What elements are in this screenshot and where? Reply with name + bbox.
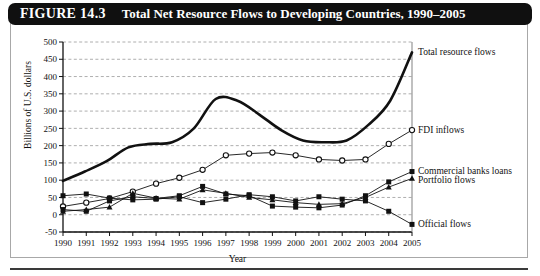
data-point-marker bbox=[153, 181, 158, 186]
x-axis-tick-label: 2003 bbox=[356, 238, 375, 248]
data-point-marker bbox=[84, 192, 89, 197]
y-axis-tick-label: 100 bbox=[44, 175, 58, 185]
y-axis-tick-label: 150 bbox=[44, 158, 58, 168]
data-point-marker bbox=[340, 197, 345, 202]
series-label-fdi-inflows: FDI inflows bbox=[418, 125, 464, 135]
data-point-marker bbox=[177, 175, 182, 180]
y-axis-tick-label: 50 bbox=[48, 193, 58, 203]
x-axis-tick-label: 1999 bbox=[263, 238, 282, 248]
series-label-official-flows: Official flows bbox=[418, 219, 471, 229]
data-point-marker bbox=[293, 205, 298, 210]
data-point-marker bbox=[409, 127, 414, 132]
data-point-marker bbox=[61, 193, 66, 198]
data-point-marker bbox=[293, 153, 298, 158]
data-point-marker bbox=[410, 222, 415, 227]
series-label-total-resource-flows: Total resource flows bbox=[418, 47, 496, 57]
x-axis-tick-label: 2000 bbox=[287, 238, 306, 248]
x-axis-title: Year bbox=[229, 254, 247, 264]
y-axis-tick-label: 450 bbox=[44, 54, 58, 64]
y-axis-tick-label: 200 bbox=[44, 141, 58, 151]
y-axis-tick-label: 0 bbox=[53, 210, 58, 220]
y-axis-tick-label: 300 bbox=[44, 106, 58, 116]
x-axis-tick-label: 1992 bbox=[101, 238, 119, 248]
data-point-marker bbox=[247, 192, 252, 197]
x-axis-tick-label: 2005 bbox=[403, 238, 422, 248]
data-point-marker bbox=[293, 198, 298, 203]
data-point-marker bbox=[154, 197, 159, 202]
data-point-marker bbox=[340, 158, 345, 163]
data-point-marker bbox=[200, 200, 205, 205]
data-point-marker bbox=[223, 197, 228, 202]
data-point-marker bbox=[386, 209, 391, 214]
data-point-marker bbox=[177, 194, 182, 199]
y-axis-tick-label: 350 bbox=[44, 89, 58, 99]
data-point-marker bbox=[363, 157, 368, 162]
data-point-marker bbox=[270, 204, 275, 209]
data-point-marker bbox=[386, 141, 391, 146]
x-axis-tick-label: 1991 bbox=[77, 238, 95, 248]
y-axis-tick-label: 400 bbox=[44, 72, 58, 82]
series-label-portfolio-flows: Portfolio flows bbox=[418, 175, 476, 185]
x-axis-tick-label: 1993 bbox=[124, 238, 143, 248]
x-axis-tick-label: 1995 bbox=[170, 238, 189, 248]
data-point-marker bbox=[107, 196, 112, 201]
x-axis-tick-label: 2001 bbox=[310, 238, 328, 248]
data-point-marker bbox=[247, 151, 252, 156]
data-point-marker bbox=[223, 153, 228, 158]
x-axis-tick-label: 1994 bbox=[147, 238, 166, 248]
data-point-marker bbox=[386, 179, 391, 184]
data-point-marker bbox=[316, 157, 321, 162]
data-point-marker bbox=[363, 198, 368, 203]
data-point-marker bbox=[270, 150, 275, 155]
y-axis-tick-label: -50 bbox=[45, 227, 57, 237]
x-axis-tick-label: 1990 bbox=[54, 238, 73, 248]
x-axis-tick-label: 1998 bbox=[240, 238, 259, 248]
data-point-marker bbox=[410, 169, 415, 174]
y-axis-tick-label: 500 bbox=[44, 37, 58, 47]
figure-root: FIGURE 14.3 Total Net Resource Flows to … bbox=[0, 0, 540, 276]
x-axis-tick-label: 1997 bbox=[217, 238, 236, 248]
data-point-marker bbox=[316, 194, 321, 199]
line-chart-svg: -500501001502002503003504004505001990199… bbox=[0, 0, 540, 276]
data-point-marker bbox=[270, 194, 275, 199]
data-point-marker bbox=[84, 200, 89, 205]
data-point-marker bbox=[200, 167, 205, 172]
x-axis-tick-label: 2004 bbox=[380, 238, 399, 248]
x-axis-tick-label: 2002 bbox=[333, 238, 351, 248]
chart-plot-area: Billions of U.S. dollars -50050100150200… bbox=[0, 0, 540, 276]
y-axis-tick-label: 250 bbox=[44, 124, 58, 134]
figure-bottom-rule bbox=[10, 268, 528, 270]
x-axis-tick-label: 1996 bbox=[194, 238, 213, 248]
data-point-marker bbox=[130, 197, 135, 202]
